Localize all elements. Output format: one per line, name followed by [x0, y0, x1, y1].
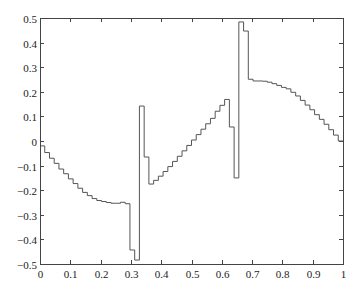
x-tick-label: 0.6: [216, 268, 230, 280]
x-tick-label: 0.2: [95, 268, 109, 280]
y-tick-label: 0.3: [23, 62, 37, 74]
x-tick-label: 0.5: [186, 268, 200, 280]
y-tick-label: −0.1: [17, 161, 37, 173]
step-chart: −0.5−0.4−0.3−0.2−0.100.10.20.30.40.5 00.…: [0, 0, 362, 291]
y-tick-label: −0.5: [17, 259, 37, 271]
x-tick-label: 0.3: [125, 268, 139, 280]
plot-background: [0, 0, 362, 291]
y-tick-label: 0.5: [23, 13, 37, 25]
x-tick-label: 0.8: [276, 268, 290, 280]
x-tick-label: 1: [341, 268, 347, 280]
x-tick-label: 0: [38, 268, 44, 280]
x-tick-label: 0.9: [307, 268, 321, 280]
y-tick-label: −0.2: [17, 185, 37, 197]
y-tick-label: −0.3: [17, 210, 37, 222]
y-tick-label: 0.2: [23, 87, 37, 99]
x-tick-label: 0.4: [155, 268, 169, 280]
y-tick-label: 0.1: [23, 111, 37, 123]
x-tick-label: 0.7: [246, 268, 260, 280]
y-tick-label: −0.4: [17, 234, 37, 246]
y-tick-label: 0.4: [23, 38, 37, 50]
x-tick-label: 0.1: [64, 268, 78, 280]
y-tick-label: 0: [32, 136, 38, 148]
